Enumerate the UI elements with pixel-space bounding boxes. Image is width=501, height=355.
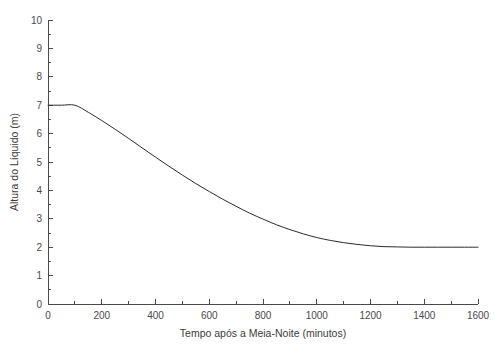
x-tick-label: 400	[147, 310, 164, 321]
y-axis-tick-labels: 012345678910	[31, 15, 43, 310]
y-axis-title: Altura do Líquido (m)	[8, 113, 20, 211]
y-tick-label: 1	[36, 270, 42, 281]
x-tick-label: 1600	[467, 310, 490, 321]
x-tick-label: 200	[93, 310, 110, 321]
data-series-layer	[48, 105, 478, 248]
y-tick-label: 3	[36, 213, 42, 224]
x-axis-tick-labels: 02004006008001000120014001600	[45, 310, 489, 321]
y-tick-label: 2	[36, 242, 42, 253]
x-axis-major-ticks	[48, 299, 478, 304]
x-tick-label: 1000	[306, 310, 329, 321]
x-tick-label: 600	[201, 310, 218, 321]
x-tick-label: 0	[45, 310, 51, 321]
y-tick-label: 6	[36, 128, 42, 139]
data-curve-0	[48, 105, 478, 248]
y-tick-label: 10	[31, 15, 43, 26]
chart-figure: 02004006008001000120014001600 0123456789…	[0, 0, 501, 355]
y-tick-label: 7	[36, 100, 42, 111]
y-tick-label: 0	[36, 299, 42, 310]
x-tick-label: 1400	[413, 310, 436, 321]
y-tick-label: 4	[36, 185, 42, 196]
y-tick-label: 5	[36, 157, 42, 168]
chart-canvas: 02004006008001000120014001600 0123456789…	[0, 0, 501, 355]
y-tick-label: 8	[36, 71, 42, 82]
x-tick-label: 800	[255, 310, 272, 321]
x-axis-title: Tempo após a Meia-Noite (minutos)	[180, 327, 346, 339]
y-tick-label: 9	[36, 43, 42, 54]
x-tick-label: 1200	[359, 310, 382, 321]
